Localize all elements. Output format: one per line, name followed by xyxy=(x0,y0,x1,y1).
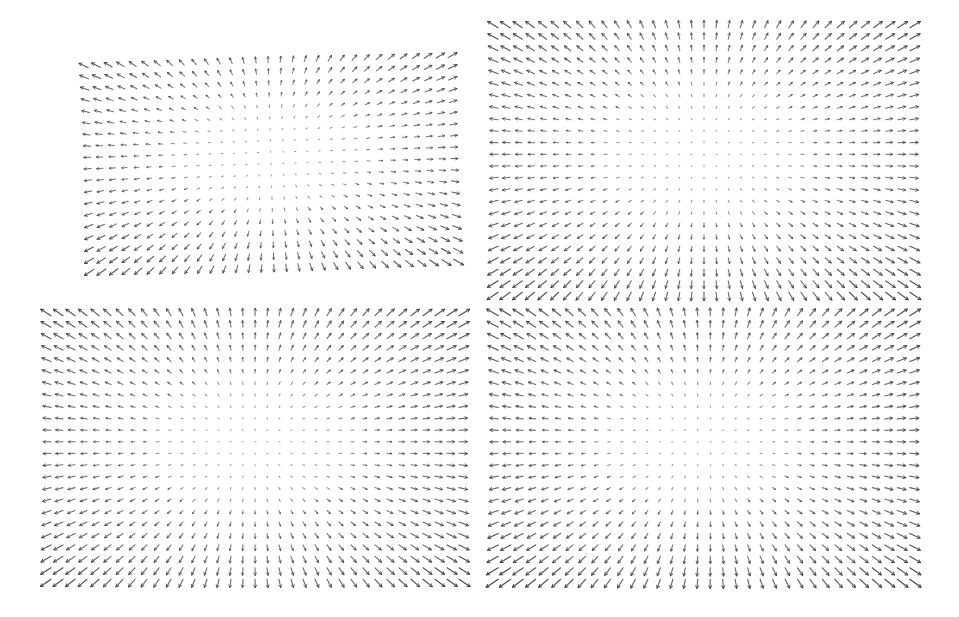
quiver-arrow xyxy=(315,476,317,477)
quiver-arrow xyxy=(872,579,881,587)
quiver-arrow xyxy=(303,406,305,407)
quiver-arrow xyxy=(291,394,293,396)
quiver-arrow xyxy=(679,131,680,132)
quiver-arrowhead xyxy=(255,370,256,371)
quiver-arrow xyxy=(279,418,280,419)
quiver-arrowhead xyxy=(381,148,382,149)
quiver-arrow xyxy=(723,406,724,407)
quiver-arrow xyxy=(765,200,767,202)
quiver-arrow xyxy=(66,309,75,315)
quiver-arrow xyxy=(305,104,307,106)
quiver-arrow xyxy=(181,488,183,490)
quiver-arrow xyxy=(551,292,559,300)
quiver-arrow xyxy=(752,107,754,109)
quiver-arrow xyxy=(267,430,268,431)
quiver-arrow xyxy=(525,292,534,299)
quiver-arrow xyxy=(500,281,510,288)
quiver-arrow xyxy=(629,200,632,202)
quiver-arrow xyxy=(641,107,643,109)
quiver-arrow xyxy=(267,406,268,407)
quiver-arrowhead xyxy=(242,370,243,371)
quiver-arrow xyxy=(646,465,648,466)
quiver-arrow xyxy=(679,94,680,96)
quiver-arrow xyxy=(874,281,883,288)
quiver-arrow xyxy=(487,568,499,575)
quiver-arrow xyxy=(617,177,620,178)
quiver-arrow xyxy=(654,200,656,202)
quiver-arrow xyxy=(423,579,432,586)
quiver-arrow xyxy=(728,131,729,132)
quiver-arrow xyxy=(735,465,736,466)
quiver-arrow xyxy=(234,198,236,200)
quiver-arrow xyxy=(633,465,635,466)
quiver-arrow xyxy=(218,406,219,407)
quiver-arrow xyxy=(306,116,308,118)
quiver-arrow xyxy=(723,488,724,490)
quiver-arrow xyxy=(874,292,883,299)
quiver-arrow xyxy=(608,465,611,466)
quiver-arrow xyxy=(267,453,268,454)
quiver-arrow xyxy=(267,476,268,477)
quiver-arrow xyxy=(777,119,779,120)
quiver-arrow xyxy=(646,488,648,490)
quiver-arrow xyxy=(205,394,207,396)
quiver-arrow xyxy=(748,406,750,407)
quiver-arrow xyxy=(716,166,717,167)
quiver-arrow xyxy=(801,177,804,178)
quiver-arrow xyxy=(691,200,692,202)
quiver-arrow xyxy=(748,418,749,419)
quiver-arrow xyxy=(291,465,292,466)
quiver-arrowhead xyxy=(787,477,788,478)
quiver-arrow xyxy=(331,173,333,174)
quiver-arrow xyxy=(646,418,647,419)
quiver-arrow xyxy=(294,128,295,129)
quiver-arrow xyxy=(728,212,729,215)
quiver-arrow xyxy=(897,309,907,316)
quiver-arrow xyxy=(642,177,644,178)
quiver-arrowhead xyxy=(267,513,268,514)
quiver-arrow xyxy=(641,200,643,202)
quiver-arrow xyxy=(885,309,894,316)
quiver-arrow xyxy=(898,281,908,288)
quiver-arrowhead xyxy=(592,165,593,166)
quiver-arrowhead xyxy=(607,477,608,478)
quiver-arrow xyxy=(679,212,680,215)
quiver-arrowhead xyxy=(800,418,801,419)
quiver-arrow xyxy=(777,189,779,190)
quiver-arrow xyxy=(777,131,779,132)
quiver-canvas xyxy=(82,52,460,275)
quiver-arrow xyxy=(487,556,498,562)
quiver-arrow xyxy=(654,107,656,109)
quiver-arrow xyxy=(233,130,234,131)
quiver-arrow xyxy=(654,212,656,214)
quiver-arrow xyxy=(318,128,320,129)
quiver-arrow xyxy=(343,173,345,174)
quiver-arrow xyxy=(283,163,284,164)
quiver-arrowhead xyxy=(684,370,685,371)
quiver-arrow xyxy=(327,418,329,419)
quiver-arrow xyxy=(837,292,844,300)
arrow-layer xyxy=(79,51,464,277)
quiver-arrow xyxy=(327,394,330,396)
quiver-arrowhead xyxy=(815,142,816,143)
quiver-arrow xyxy=(616,189,619,190)
quiver-arrow xyxy=(294,116,295,118)
quiver-arrow xyxy=(740,189,741,190)
quiver-arrowhead xyxy=(582,441,583,442)
quiver-arrow xyxy=(291,488,293,490)
quiver-arrow xyxy=(860,309,868,316)
quiver-arrow xyxy=(617,131,620,132)
quiver-arrow xyxy=(196,143,198,144)
quiver-arrow xyxy=(303,394,305,396)
quiver-arrow xyxy=(691,166,692,167)
quiver-arrow xyxy=(752,95,754,97)
quiver-arrow xyxy=(748,394,750,396)
quiver-arrow xyxy=(723,465,724,466)
quiver-arrow xyxy=(748,476,750,477)
quiver-arrow xyxy=(206,418,207,419)
quiver-arrow xyxy=(785,465,788,466)
quiver-arrow xyxy=(332,195,335,197)
quiver-arrow xyxy=(435,568,444,574)
quiver-arrow xyxy=(861,292,869,300)
quiver-arrow xyxy=(654,177,655,178)
